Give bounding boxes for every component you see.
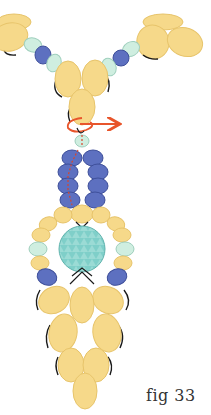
mint-bead	[116, 242, 134, 256]
center-stone	[59, 226, 105, 272]
figure-label: fig 33	[146, 386, 196, 405]
v-junction	[55, 60, 109, 125]
yellow-bead	[31, 256, 49, 270]
fringe-cluster	[34, 281, 129, 409]
yellow-bead	[113, 228, 131, 242]
blue-bead	[88, 178, 108, 194]
blue-bead	[85, 192, 105, 208]
mint-bead	[29, 242, 47, 256]
yellow-bead	[73, 373, 97, 409]
yellow-bead	[71, 205, 93, 223]
beading-diagram	[0, 0, 211, 415]
thread-path	[68, 118, 118, 133]
center-cluster	[29, 205, 134, 288]
left-strand	[0, 14, 64, 74]
yellow-bead	[34, 281, 75, 320]
right-strand	[99, 14, 206, 78]
yellow-bead	[32, 228, 50, 242]
yellow-bead	[70, 287, 94, 323]
yellow-bead	[114, 256, 132, 270]
blue-bead	[83, 150, 103, 166]
blue-bead	[62, 150, 82, 166]
